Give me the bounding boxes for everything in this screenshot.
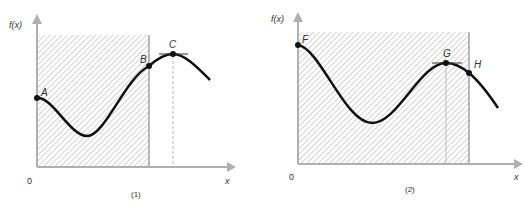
point-b	[146, 63, 152, 69]
x-axis-arrow-icon	[514, 159, 523, 169]
label-f: F	[302, 34, 309, 45]
label-h: H	[474, 59, 482, 70]
shaded-region	[37, 35, 149, 167]
panel-caption: (2)	[405, 185, 415, 194]
panel-1: A B C f(x) 0 x (1)	[9, 14, 236, 199]
y-axis-label: f(x)	[271, 14, 284, 24]
y-axis-arrow-icon	[32, 14, 42, 24]
label-b: B	[140, 54, 147, 65]
origin-label: 0	[27, 176, 32, 186]
x-axis-arrow-icon	[227, 162, 236, 172]
point-f	[295, 42, 301, 48]
y-axis-label: f(x)	[9, 20, 22, 30]
panel-caption: (1)	[131, 190, 141, 199]
point-g	[443, 60, 449, 66]
x-axis-label: x	[224, 176, 230, 186]
point-c	[170, 51, 176, 57]
figure: A B C f(x) 0 x (1) F G H f(x) 0 x (2)	[0, 0, 525, 210]
point-h	[466, 70, 472, 76]
origin-label: 0	[289, 172, 294, 182]
panel-2: F G H f(x) 0 x (2)	[271, 12, 523, 194]
y-axis-arrow-icon	[293, 12, 303, 22]
label-a: A	[40, 87, 48, 98]
label-c: C	[169, 39, 177, 50]
x-axis-label: x	[513, 172, 519, 182]
point-a	[34, 95, 40, 101]
label-g: G	[443, 48, 451, 59]
